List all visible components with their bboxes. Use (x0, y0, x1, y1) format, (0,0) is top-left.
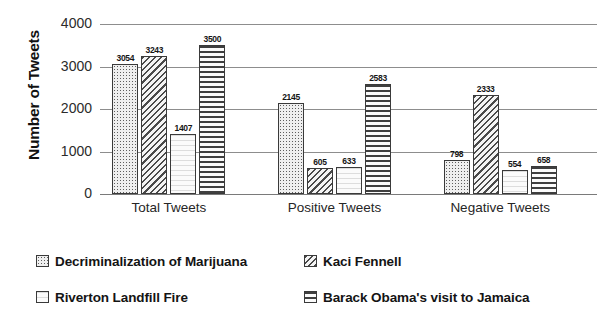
bar[interactable]: 554 (502, 170, 528, 194)
legend-swatch-light-wavy-icon (36, 291, 49, 303)
legend-label-1: Kaci Fennell (323, 254, 401, 269)
legend-label-3: Barack Obama's visit to Jamaica (323, 290, 529, 305)
bar[interactable]: 658 (531, 166, 557, 194)
legend-item-1[interactable]: Kaci Fennell (304, 254, 401, 269)
bar-value-label: 2583 (369, 73, 387, 83)
legend-item-3[interactable]: Barack Obama's visit to Jamaica (304, 290, 529, 305)
bar[interactable]: 3243 (141, 56, 167, 194)
legend-item-0[interactable]: Decriminalization of Marijuana (36, 254, 304, 269)
bar[interactable]: 605 (307, 168, 333, 194)
x-axis-category-label: Negative Tweets (450, 200, 550, 215)
bar-value-label: 3243 (145, 45, 163, 55)
bar-value-label: 658 (537, 155, 550, 165)
bar-groups: 3054324314073500214560563325837982333554… (100, 24, 597, 194)
y-axis-tick-label: 0 (40, 185, 92, 201)
bar-value-label: 633 (342, 156, 355, 166)
legend-item-2[interactable]: Riverton Landfill Fire (36, 290, 304, 305)
x-axis-category-labels: Total TweetsPositive TweetsNegative Twee… (100, 200, 597, 222)
bar[interactable]: 2583 (365, 84, 391, 194)
bar-group: 21456056332583 (266, 24, 432, 194)
bar-group: 7982333554658 (431, 24, 597, 194)
bar[interactable]: 2145 (278, 103, 304, 194)
legend-label-2: Riverton Landfill Fire (55, 290, 188, 305)
legend-row-2: Riverton Landfill Fire Barack Obama's vi… (36, 279, 596, 315)
y-axis-tick-label: 1000 (40, 143, 92, 159)
bar[interactable]: 1407 (170, 134, 196, 194)
legend: Decriminalization of Marijuana Kaci Fenn… (36, 243, 596, 315)
bar[interactable]: 3500 (199, 45, 225, 194)
chart-figure: Number of Tweets 01000200030004000 30543… (0, 0, 612, 328)
y-axis-tick-label: 3000 (40, 58, 92, 74)
legend-swatch-diagonal-hatch-icon (304, 255, 317, 267)
bar[interactable]: 633 (336, 167, 362, 194)
y-axis-tick-label: 2000 (40, 100, 92, 116)
bar[interactable]: 798 (444, 160, 470, 194)
bar-value-label: 2145 (282, 92, 300, 102)
legend-label-0: Decriminalization of Marijuana (55, 254, 247, 269)
legend-swatch-horizontal-stripes-icon (304, 291, 317, 303)
legend-swatch-dotted-grid-icon (36, 255, 49, 267)
x-axis-category-label: Total Tweets (131, 200, 206, 215)
plot-area: 01000200030004000 3054324314073500214560… (100, 24, 597, 194)
legend-row-1: Decriminalization of Marijuana Kaci Fenn… (36, 243, 596, 279)
bar-value-label: 2333 (477, 84, 495, 94)
bar[interactable]: 2333 (473, 95, 499, 194)
bar-value-label: 554 (508, 159, 521, 169)
bar-value-label: 3054 (116, 53, 134, 63)
bar-value-label: 3500 (203, 34, 221, 44)
bar-value-label: 798 (450, 149, 463, 159)
bar[interactable]: 3054 (112, 64, 138, 194)
y-axis-tick-label: 4000 (40, 15, 92, 31)
bar-value-label: 605 (313, 157, 326, 167)
bar-group: 3054324314073500 (100, 24, 266, 194)
x-axis-category-label: Positive Tweets (288, 200, 382, 215)
bar-value-label: 1407 (174, 123, 192, 133)
gridline (100, 194, 597, 195)
